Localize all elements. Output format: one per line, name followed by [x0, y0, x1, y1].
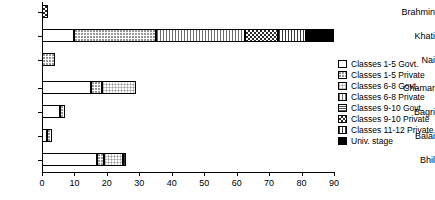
chart-legend: Classes 1-5 Govt.Classes 1-5 PrivateClas… [338, 58, 434, 146]
legend-label-priv68: Classes 6-8 Private [351, 92, 425, 102]
bar-segment-priv15 [47, 129, 52, 142]
x-axis-tick-label: 30 [124, 178, 154, 188]
legend-label-govt910: Classes 9-10 Govt. [351, 103, 423, 113]
bar-segment-govt68 [102, 81, 136, 94]
legend-swatch-priv15 [338, 71, 347, 79]
bar-segment-govt15 [42, 105, 60, 118]
legend-label-govt68: Classes 6-8 Govt. [351, 81, 419, 91]
bar-segment-govt15 [42, 153, 97, 166]
legend-swatch-govt15 [338, 60, 347, 68]
legend-swatch-govt910 [338, 104, 347, 112]
legend-swatch-priv910 [338, 115, 347, 123]
bar-segment-govt68 [104, 153, 123, 166]
legend-item-govt68[interactable]: Classes 6-8 Govt. [338, 80, 434, 91]
bar-segment-priv15 [60, 105, 65, 118]
legend-item-univ[interactable]: Univ. stage [338, 135, 434, 146]
x-axis-tick-label: 10 [59, 178, 89, 188]
bar-bhil [0, 153, 435, 166]
x-axis-tick [42, 172, 43, 176]
legend-swatch-priv68 [338, 93, 347, 101]
bar-segment-priv910 [42, 5, 48, 18]
legend-swatch-govt68 [338, 82, 347, 90]
x-axis-tick [302, 172, 303, 176]
x-axis-tick [172, 172, 173, 176]
x-axis-tick-label: 60 [222, 178, 252, 188]
x-axis-tick [107, 172, 108, 176]
x-axis-tick-label: 50 [189, 178, 219, 188]
x-axis-tick-label: 90 [319, 178, 349, 188]
legend-item-priv1112[interactable]: Classes 11-12 Private [338, 124, 434, 135]
legend-item-priv15[interactable]: Classes 1-5 Private [338, 69, 434, 80]
bar-segment-priv1112 [278, 29, 306, 42]
x-axis-tick-label: 70 [254, 178, 284, 188]
x-axis-tick [269, 172, 270, 176]
legend-label-univ: Univ. stage [351, 136, 393, 146]
legend-swatch-univ [338, 137, 347, 145]
x-axis-tick [74, 172, 75, 176]
legend-label-priv15: Classes 1-5 Private [351, 70, 425, 80]
bar-segment-priv1112 [123, 153, 126, 166]
legend-item-priv910[interactable]: Classes 9-10 Private [338, 113, 434, 124]
x-axis-tick [204, 172, 205, 176]
x-axis-tick-label: 40 [157, 178, 187, 188]
bar-khati [0, 29, 435, 42]
bar-segment-priv15 [91, 81, 102, 94]
stacked-bar-chart: 0102030405060708090 BrahminKhatiNaiChama… [0, 0, 435, 200]
legend-item-govt910[interactable]: Classes 9-10 Govt. [338, 102, 434, 113]
x-axis-tick [334, 172, 335, 176]
bar-segment-priv15 [74, 29, 155, 42]
x-axis-line [42, 172, 334, 173]
legend-label-govt15: Classes 1-5 Govt. [351, 59, 419, 69]
bar-segment-priv910 [245, 29, 278, 42]
legend-item-govt15[interactable]: Classes 1-5 Govt. [338, 58, 434, 69]
x-axis-tick-label: 20 [92, 178, 122, 188]
x-axis-tick [139, 172, 140, 176]
legend-item-priv68[interactable]: Classes 6-8 Private [338, 91, 434, 102]
legend-label-priv910: Classes 9-10 Private [351, 114, 429, 124]
bar-brahmin [0, 5, 435, 18]
x-axis-tick [237, 172, 238, 176]
bar-segment-priv15 [42, 53, 55, 66]
bar-segment-priv15 [97, 153, 103, 166]
bar-segment-priv68 [156, 29, 245, 42]
x-axis-tick-label: 80 [287, 178, 317, 188]
legend-label-priv1112: Classes 11-12 Private [351, 125, 434, 135]
bar-segment-univ [306, 29, 334, 42]
bar-segment-govt15 [42, 29, 74, 42]
legend-swatch-priv1112 [338, 126, 347, 134]
bar-segment-govt15 [42, 81, 91, 94]
x-axis-tick-label: 0 [27, 178, 57, 188]
